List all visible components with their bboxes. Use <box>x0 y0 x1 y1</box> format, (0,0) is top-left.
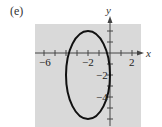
y-tick-label-neg4: −4 <box>96 91 108 103</box>
x-axis-label: x <box>145 47 151 59</box>
x-tick-label-neg6: −6 <box>39 56 51 68</box>
y-axis-arrow-icon <box>108 16 113 23</box>
y-tick-label-neg2: −2 <box>96 69 108 81</box>
x-tick-label-neg2: −2 <box>82 56 94 68</box>
plot-background <box>35 24 141 127</box>
y-axis-label: y <box>105 4 111 16</box>
ellipse-chart: −6 −2 2 −2 −4 x y <box>0 0 162 127</box>
x-tick-label-2: 2 <box>129 56 135 68</box>
